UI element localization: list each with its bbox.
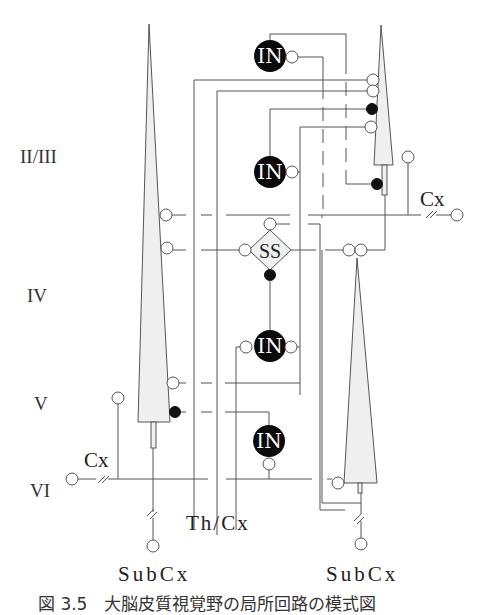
excitatory-synapse (367, 74, 379, 86)
inhibitory-synapse (170, 407, 181, 418)
excitatory-synapse (167, 377, 179, 389)
label-subcx-left: SubCx (118, 562, 190, 587)
inhibitory-synapse (367, 104, 378, 115)
spiny-stellate-cell: SS (249, 230, 291, 270)
excitatory-synapse (160, 209, 172, 221)
label-th-cx: Th/Cx (186, 511, 250, 536)
excitatory-synapse (367, 85, 379, 97)
interneuron-3: IN (254, 330, 286, 362)
interneuron-2: IN (254, 156, 286, 188)
figure-caption: 図 3.5 大脳皮質視覚野の局所回路の模式図 (38, 590, 376, 615)
interneuron-1: IN (254, 40, 286, 72)
svg-text:IN: IN (257, 334, 282, 358)
svg-text:IN: IN (257, 160, 282, 184)
svg-text:IN: IN (256, 429, 281, 453)
svg-text:Cx: Cx (420, 187, 445, 211)
svg-text:Cx: Cx (84, 448, 109, 472)
inhibitory-synapse (372, 179, 383, 190)
excitatory-synapse (332, 477, 344, 489)
excitatory-synapse (365, 121, 377, 133)
pyramidal-cell-lower-right (344, 258, 377, 493)
interneuron-4: IN (253, 425, 285, 457)
pyramidal-cell-left (138, 24, 170, 448)
label-subcx-right: SubCx (326, 562, 398, 587)
svg-text:IN: IN (257, 44, 282, 68)
excitatory-synapse (161, 242, 173, 254)
svg-text:SS: SS (259, 240, 281, 262)
